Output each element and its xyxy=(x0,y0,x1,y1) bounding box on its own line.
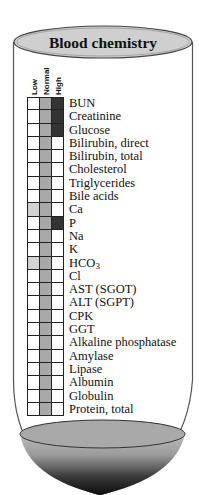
row-label: Cl xyxy=(69,269,81,283)
cell-high xyxy=(51,163,64,176)
row-label: Amylase xyxy=(69,349,113,363)
row-label: Bilirubin, total xyxy=(69,149,143,163)
row-label: Triglycerides xyxy=(69,176,135,190)
row-label: Bilirubin, direct xyxy=(69,136,149,150)
cell-high xyxy=(51,376,64,389)
cell-high xyxy=(51,403,64,416)
row-label: Creatinine xyxy=(69,109,121,123)
cell-high xyxy=(51,363,64,376)
row-label: Globulin xyxy=(69,389,113,403)
row-label: ALT (SGPT) xyxy=(69,295,134,309)
cell-high xyxy=(51,124,64,137)
row-label: Protein, total xyxy=(69,402,134,416)
row-label: Alkaline phosphatase xyxy=(69,335,176,349)
cell-high xyxy=(51,150,64,163)
row-label: Bile acids xyxy=(69,189,119,203)
row-label: Ca xyxy=(69,202,83,216)
cell-high xyxy=(51,390,64,403)
row-label: Glucose xyxy=(69,123,110,137)
cell-high xyxy=(51,177,64,190)
row-label: P xyxy=(69,216,76,230)
cell-high xyxy=(51,323,64,336)
row-label: Na xyxy=(69,229,84,243)
cell-high xyxy=(51,283,64,296)
row-label: CPK xyxy=(69,309,93,323)
row-label: Albumin xyxy=(69,375,113,389)
cell-high xyxy=(51,243,64,256)
cell-high xyxy=(51,230,64,243)
row-label: BUN xyxy=(69,96,95,110)
cell-high xyxy=(51,217,64,230)
row-label: Cholesterol xyxy=(69,162,127,176)
cell-high xyxy=(51,296,64,309)
cell-high xyxy=(51,270,64,283)
row-label: AST (SGOT) xyxy=(69,282,136,296)
row-label: Lipase xyxy=(69,362,102,376)
row-label: GGT xyxy=(69,322,95,336)
chart-title: Blood chemistry xyxy=(13,29,193,57)
column-header-high: High xyxy=(51,63,64,95)
cell-high xyxy=(51,97,64,110)
cell-high xyxy=(51,203,64,216)
cell-high xyxy=(51,310,64,323)
cell-high xyxy=(51,110,64,123)
cell-high xyxy=(51,190,64,203)
cell-high xyxy=(51,336,64,349)
cell-high xyxy=(51,137,64,150)
cell-high xyxy=(51,257,64,270)
cell-high xyxy=(51,350,64,363)
row-label: K xyxy=(69,242,78,256)
